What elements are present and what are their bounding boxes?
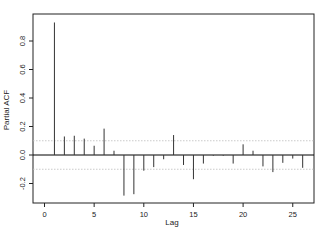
pacf-chart: 0510152025 -0.20.00.20.40.60.8 Lag Parti…: [0, 0, 324, 236]
x-axis-label: Lag: [165, 218, 178, 227]
y-tick-label: 0.8: [18, 36, 27, 46]
x-tick-label: 25: [289, 210, 297, 219]
y-tick-label: 0.0: [18, 150, 27, 160]
x-tick-label: 10: [140, 210, 148, 219]
x-axis: 0510152025: [42, 203, 297, 219]
y-tick-label: -0.2: [18, 177, 27, 190]
x-tick-label: 0: [42, 210, 46, 219]
plot-frame: [33, 14, 314, 203]
x-tick-label: 5: [92, 210, 96, 219]
y-tick-label: 0.6: [18, 64, 27, 74]
y-axis: -0.20.00.20.40.60.8: [18, 36, 33, 190]
plot-border: [33, 14, 314, 203]
pacf-plot-svg: 0510152025 -0.20.00.20.40.60.8 Lag Parti…: [0, 0, 324, 236]
x-tick-label: 20: [239, 210, 247, 219]
y-tick-label: 0.2: [18, 121, 27, 131]
y-tick-label: 0.4: [18, 93, 27, 103]
x-tick-label: 15: [189, 210, 197, 219]
y-axis-label: Partial ACF: [2, 90, 11, 131]
